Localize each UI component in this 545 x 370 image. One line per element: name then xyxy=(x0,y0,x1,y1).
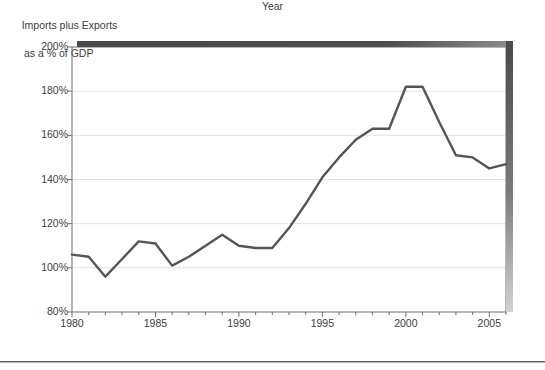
gridlines xyxy=(72,91,506,268)
page-bottom-rule xyxy=(0,361,545,363)
chart-figure: Imports plus Exports as a % of GDP 80%10… xyxy=(0,0,545,370)
plot-drop-shadow xyxy=(77,41,513,312)
axis-ticks xyxy=(67,47,506,317)
plot-area xyxy=(72,47,506,312)
plot-svg xyxy=(0,0,545,370)
data-line-series xyxy=(72,87,506,277)
